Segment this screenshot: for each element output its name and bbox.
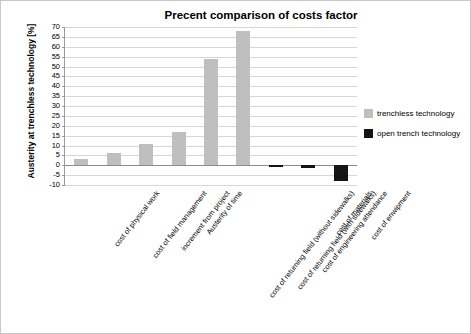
plot-area: 7065605550454035302520151050-5-10: [64, 27, 356, 185]
legend-item-trenchless: trenchless technology: [364, 109, 460, 118]
y-tick-mark: [62, 67, 65, 68]
y-tick-mark: [62, 37, 65, 38]
y-tick-mark: [62, 86, 65, 87]
y-tick-label: 0: [34, 161, 60, 169]
y-tick-label: 50: [34, 63, 60, 71]
y-tick-mark: [62, 96, 65, 97]
y-tick-mark: [62, 165, 65, 166]
bar: [301, 165, 315, 168]
y-tick-label: 35: [34, 92, 60, 100]
y-tick-mark: [62, 27, 65, 28]
y-tick-mark: [62, 126, 65, 127]
y-tick-label: 10: [34, 142, 60, 150]
bar: [269, 165, 283, 167]
y-tick-mark: [62, 185, 65, 186]
y-tick-label: 20: [34, 122, 60, 130]
gridline: [65, 57, 357, 58]
y-tick-mark: [62, 175, 65, 176]
y-tick-label: 5: [34, 151, 60, 159]
legend-item-open-trench: open trench technology: [364, 129, 460, 138]
y-tick-label: -5: [34, 171, 60, 179]
y-tick-mark: [62, 146, 65, 147]
y-tick-label: 40: [34, 82, 60, 90]
bar: [236, 31, 250, 165]
y-tick-mark: [62, 136, 65, 137]
y-tick-label: 45: [34, 72, 60, 80]
y-tick-mark: [62, 155, 65, 156]
y-tick-mark: [62, 57, 65, 58]
legend-item-label: open trench technology: [377, 129, 460, 138]
bar: [334, 165, 348, 181]
y-tick-label: 25: [34, 112, 60, 120]
gridline: [65, 175, 357, 176]
y-tick-label: 15: [34, 132, 60, 140]
chart-title: Precent comparison of costs factor: [96, 9, 426, 21]
y-tick-mark: [62, 47, 65, 48]
bar: [139, 144, 153, 166]
y-tick-label: 65: [34, 33, 60, 41]
gridline: [65, 27, 357, 28]
legend-swatch-icon: [364, 109, 373, 118]
gridline: [65, 185, 357, 186]
y-tick-mark: [62, 76, 65, 77]
bar: [107, 153, 121, 165]
x-axis-category-labels: cost of physical workcost of field manag…: [64, 187, 356, 307]
bar: [74, 159, 88, 165]
chart-container: Precent comparison of costs factor Auste…: [0, 0, 471, 334]
y-tick-mark: [62, 106, 65, 107]
y-tick-label: 60: [34, 43, 60, 51]
legend-swatch-icon: [364, 129, 373, 138]
gridline: [65, 47, 357, 48]
y-tick-label: 30: [34, 102, 60, 110]
y-tick-label: 70: [34, 23, 60, 31]
y-tick-mark: [62, 116, 65, 117]
legend-item-label: trenchless technology: [377, 109, 454, 118]
gridline: [65, 37, 357, 38]
x-axis-label: cost of physical work: [112, 189, 161, 248]
bar: [204, 59, 218, 166]
y-tick-label: -10: [34, 181, 60, 189]
chart-legend: trenchless technology open trench techno…: [364, 109, 460, 149]
y-tick-label: 55: [34, 53, 60, 61]
bar: [172, 132, 186, 166]
